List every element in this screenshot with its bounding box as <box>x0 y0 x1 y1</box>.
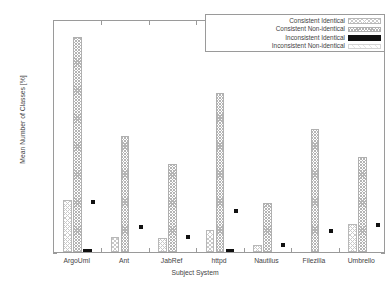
data-point-marker <box>234 209 238 213</box>
bar <box>73 37 82 252</box>
data-point-marker <box>281 243 285 247</box>
legend-item: Inconsistent Non-identical <box>206 42 381 50</box>
legend-item: Consistent Non-identical <box>206 25 381 33</box>
legend-rows: Consistent IdenticalConsistent Non-ident… <box>206 17 381 51</box>
bar <box>111 237 120 252</box>
bar <box>226 249 235 252</box>
bar <box>63 200 72 252</box>
legend-swatch-icon <box>348 18 381 24</box>
x-axis-tick-mark <box>101 248 102 252</box>
x-axis-tick-label: Umbrello <box>348 257 375 265</box>
x-axis-tick-label: Nautilus <box>254 257 279 265</box>
data-point-marker <box>329 229 333 233</box>
legend-item-label: Inconsistent Non-identical <box>272 43 348 49</box>
y-axis-title: Mean Number of Classes [%] <box>19 30 26 210</box>
bar <box>216 93 225 252</box>
x-axis-tick-mark <box>339 248 340 252</box>
chart-container: 020040060080010001200140016001800 Mean N… <box>0 0 390 294</box>
x-axis-tick-mark-top <box>101 21 102 25</box>
bar <box>168 164 177 252</box>
x-axis-tick-label: ArgoUml <box>63 257 89 265</box>
bar <box>121 136 130 253</box>
bar <box>263 203 272 252</box>
legend-item-label: Inconsistent Identical <box>285 35 348 41</box>
data-point-marker <box>376 223 380 227</box>
legend-swatch-icon <box>348 35 381 41</box>
x-axis-tick-mark-top <box>196 21 197 25</box>
x-axis-tick-mark <box>291 248 292 252</box>
legend-item: Inconsistent Identical <box>206 34 381 42</box>
legend-item-label: Consistent Identical <box>289 18 348 24</box>
bar <box>158 238 167 252</box>
legend-item: Consistent Identical <box>206 17 381 25</box>
y-axis-tick-mark <box>53 253 57 254</box>
x-axis-title: Subject System <box>0 269 390 276</box>
bar <box>311 129 320 252</box>
bar <box>83 249 92 252</box>
x-axis-tick-mark <box>196 248 197 252</box>
data-point-marker <box>186 235 190 239</box>
data-point-marker <box>91 200 95 204</box>
x-axis-tick-mark-top <box>149 21 150 25</box>
legend-swatch-icon <box>348 44 381 50</box>
x-axis-tick-mark <box>244 248 245 252</box>
y-axis-tick-mark-right <box>381 253 385 254</box>
x-axis-tick-mark <box>149 248 150 252</box>
bar <box>348 224 357 252</box>
bar <box>206 230 215 252</box>
legend-item-label: Consistent Non-identical <box>276 26 348 32</box>
x-axis-tick-label: Ant <box>119 257 129 265</box>
plot-area <box>53 20 385 253</box>
x-axis-tick-label: Filezilla <box>303 257 326 265</box>
legend: Consistent IdenticalConsistent Non-ident… <box>205 14 385 52</box>
bar <box>358 157 367 252</box>
x-axis-tick-label: httpd <box>211 257 226 265</box>
legend-swatch-icon <box>348 27 381 33</box>
data-point-marker <box>139 225 143 229</box>
bar <box>253 245 262 252</box>
x-axis-tick-label: JabRef <box>161 257 183 265</box>
